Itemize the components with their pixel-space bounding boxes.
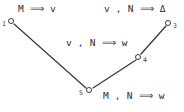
derivation-diagram: 1 3 4 5 M ⟹ v v , N ⟹ Δ v , N ⟹ w M , N … <box>0 0 184 112</box>
node-4[interactable] <box>135 54 141 60</box>
node-1-id: 1 <box>2 21 6 28</box>
judgement-node-5: M , N ⟹ w <box>103 90 165 101</box>
node-5[interactable] <box>86 87 92 93</box>
edge-4-to-3 <box>141 26 166 54</box>
node-1[interactable] <box>8 18 14 24</box>
node-3-id: 3 <box>173 23 177 30</box>
edge-5-to-4 <box>93 60 136 88</box>
node-5-id: 5 <box>79 90 83 97</box>
judgement-node-4: v , N ⟹ w <box>66 37 128 48</box>
node-4-id: 4 <box>143 57 147 64</box>
judgement-node-3: v , N ⟹ Δ <box>104 3 166 14</box>
node-3[interactable] <box>165 20 171 26</box>
judgement-node-1: M ⟹ v <box>18 3 56 14</box>
edge-1-to-5 <box>14 24 86 88</box>
